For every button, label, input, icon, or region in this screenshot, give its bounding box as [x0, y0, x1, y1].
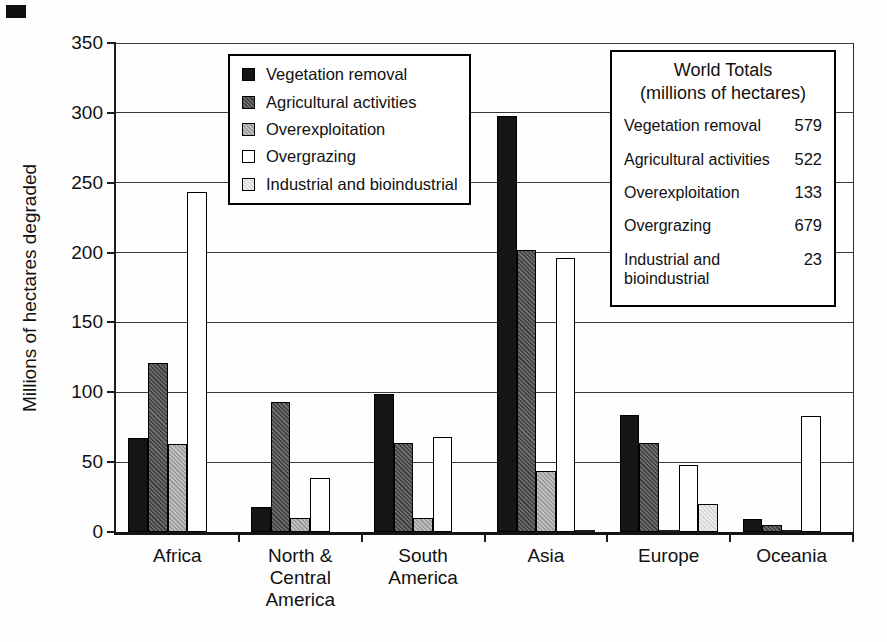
bar-europe-agricultural-activities: [639, 443, 659, 532]
bar-north--vegetation-removal: [251, 507, 271, 532]
bar-oceania-overgrazing: [801, 416, 821, 532]
scan-artifact-mark: [6, 5, 26, 18]
legend-swatch-overexploitation-icon: [242, 123, 255, 136]
totals-row-value: 23: [804, 250, 822, 269]
gridline-50: [116, 462, 853, 463]
totals-row-value: 522: [794, 150, 822, 169]
world-totals-box: World Totals (millions of hectares) Vege…: [610, 50, 836, 307]
legend-swatch-agricultural-activities-icon: [242, 96, 255, 109]
y-tick-label-50: 50: [41, 452, 103, 472]
totals-row-label: Industrial and bioindustrial: [624, 250, 720, 288]
legend-label: Vegetation removal: [266, 66, 407, 83]
x-tick-5: [729, 535, 731, 542]
y-tick-label-150: 150: [41, 312, 103, 332]
world-totals-title-line1: World Totals: [612, 59, 834, 82]
world-totals-rows: Vegetation removal 579 Agricultural acti…: [612, 105, 834, 305]
bar-asia-vegetation-removal: [497, 116, 517, 532]
totals-row-value: 679: [794, 216, 822, 235]
totals-row-industrial-bioindustrial: Industrial and bioindustrial 23: [624, 250, 822, 288]
x-axis-line: [114, 532, 854, 535]
x-tick-right: [852, 535, 854, 542]
legend-box: Vegetation removal Agricultural activiti…: [228, 54, 471, 205]
y-tick-label-250: 250: [41, 173, 103, 193]
legend-label: Overexploitation: [266, 121, 385, 138]
bar-south-overgrazing: [433, 437, 453, 532]
plot-right-border: [853, 43, 854, 532]
legend-label: Overgrazing: [266, 148, 356, 165]
totals-row-value: 133: [794, 183, 822, 202]
gridline-150: [116, 322, 853, 323]
x-tick-1: [238, 535, 240, 542]
y-axis-line: [114, 43, 116, 532]
y-tick-label-0: 0: [41, 522, 103, 542]
bar-africa-overexploitation: [168, 444, 188, 532]
bar-south-agricultural-activities: [394, 443, 414, 532]
bar-europe-vegetation-removal: [620, 415, 640, 532]
totals-row-label: Overgrazing: [624, 216, 711, 235]
bar-south-vegetation-removal: [374, 394, 394, 532]
bar-north--agricultural-activities: [271, 402, 291, 532]
bar-oceania-agricultural-activities: [762, 525, 782, 532]
world-totals-title: World Totals (millions of hectares): [612, 59, 834, 105]
totals-row-agricultural-activities: Agricultural activities 522: [624, 150, 822, 169]
bar-europe-overgrazing: [679, 465, 699, 532]
bar-asia-overexploitation: [536, 471, 556, 532]
y-tick-label-350: 350: [41, 33, 103, 53]
bar-south-overexploitation: [413, 518, 433, 532]
x-tick-2: [361, 535, 363, 542]
bar-oceania-vegetation-removal: [743, 519, 763, 532]
bar-north--overexploitation: [290, 518, 310, 532]
gridline-350: [116, 43, 853, 44]
totals-row-vegetation-removal: Vegetation removal 579: [624, 116, 822, 135]
bar-africa-vegetation-removal: [128, 438, 148, 532]
x-category-label-0: Africa: [112, 545, 242, 567]
x-category-label-1: North & Central America: [235, 545, 365, 611]
bar-asia-overgrazing: [556, 258, 576, 532]
legend-swatch-overgrazing-icon: [242, 150, 255, 163]
legend-label: Agricultural activities: [266, 94, 416, 111]
bar-africa-agricultural-activities: [148, 363, 168, 532]
x-tick-4: [606, 535, 608, 542]
legend-label: Industrial and bioindustrial: [266, 176, 458, 193]
totals-row-label: Overexploitation: [624, 183, 740, 202]
legend-swatch-industrial-bioindustrial-icon: [242, 178, 255, 191]
figure-land-degradation-chart: Millions of hectares degraded 0501001502…: [0, 0, 887, 642]
legend-item-overexploitation: Overexploitation: [242, 121, 463, 138]
x-category-label-4: Europe: [604, 545, 734, 567]
totals-row-overexploitation: Overexploitation 133: [624, 183, 822, 202]
x-tick-3: [484, 535, 486, 542]
bar-asia-agricultural-activities: [517, 250, 537, 532]
y-axis-title: Millions of hectares degraded: [19, 164, 41, 412]
totals-row-label: Agricultural activities: [624, 150, 770, 169]
legend-item-overgrazing: Overgrazing: [242, 148, 463, 165]
totals-row-overgrazing: Overgrazing 679: [624, 216, 822, 235]
y-tick-label-300: 300: [41, 103, 103, 123]
totals-row-label: Vegetation removal: [624, 116, 761, 135]
y-tick-label-200: 200: [41, 243, 103, 263]
legend-item-agricultural-activities: Agricultural activities: [242, 94, 463, 111]
legend-item-industrial-bioindustrial: Industrial and bioindustrial: [242, 176, 463, 193]
bar-africa-overgrazing: [187, 192, 207, 532]
world-totals-title-line2: (millions of hectares): [612, 82, 834, 105]
x-category-label-3: Asia: [481, 545, 611, 567]
legend-item-vegetation-removal: Vegetation removal: [242, 66, 463, 83]
legend-swatch-vegetation-removal-icon: [242, 68, 255, 81]
x-category-label-5: Oceania: [727, 545, 857, 567]
bar-north--overgrazing: [310, 478, 330, 532]
x-category-label-2: South America: [358, 545, 488, 589]
gridline-100: [116, 392, 853, 393]
totals-row-value: 579: [794, 116, 822, 135]
y-tick-label-100: 100: [41, 382, 103, 402]
bar-europe-industrial-and-bioindustrial: [698, 504, 718, 532]
